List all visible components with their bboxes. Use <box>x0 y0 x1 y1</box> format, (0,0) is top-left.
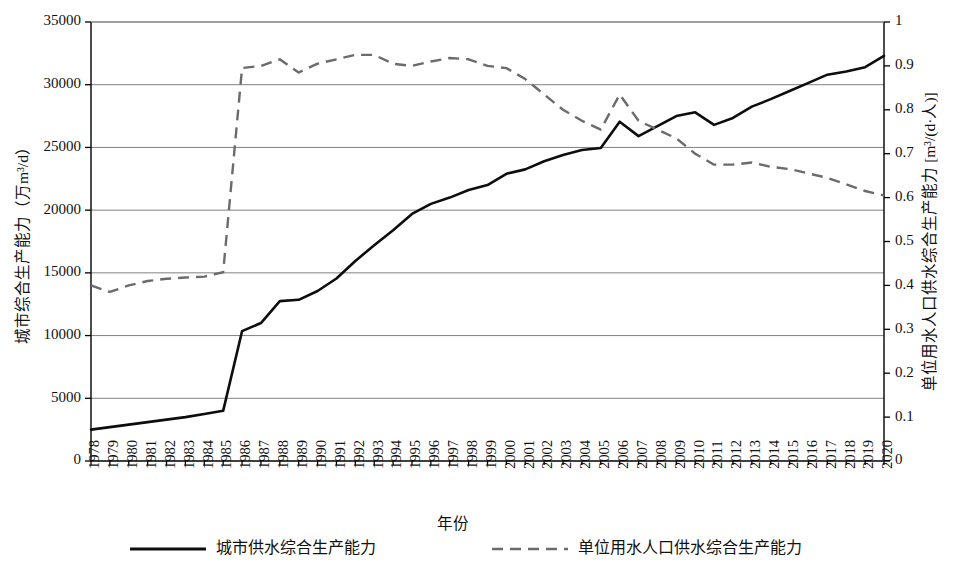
y-tick-label-right: 0.7 <box>895 144 914 160</box>
y-tick-label-left: 25000 <box>44 138 82 154</box>
x-tick-label: 1982 <box>162 440 178 469</box>
x-tick-label: 2017 <box>823 440 839 469</box>
x-tick-label: 2014 <box>766 439 782 469</box>
y-tick-label-left: 20000 <box>44 201 82 217</box>
y-tick-label-left: 0 <box>74 451 82 467</box>
x-tick-label: 1991 <box>332 440 348 469</box>
x-tick-label: 2019 <box>860 440 876 469</box>
y-tick-label-left: 5000 <box>51 389 81 405</box>
x-tick-label: 2000 <box>502 440 518 469</box>
x-tick-label: 2018 <box>842 440 858 469</box>
x-tick-label: 1992 <box>351 440 367 469</box>
series-line-1 <box>91 56 884 430</box>
x-tick-label: 1983 <box>181 440 197 469</box>
y-tick-label-left: 30000 <box>44 75 82 91</box>
x-tick-label: 1987 <box>256 440 272 469</box>
y-tick-label-right: 0.3 <box>895 320 914 336</box>
x-tick-label: 2002 <box>539 440 555 469</box>
x-tick-label: 2016 <box>804 440 820 469</box>
y-tick-label-right: 0.8 <box>895 100 914 116</box>
x-tick-label: 1981 <box>143 440 159 469</box>
legend-label-2: 单位用水人口供水综合生产能力 <box>578 539 802 556</box>
x-tick-label: 2001 <box>521 440 537 469</box>
y-tick-label-right: 0.1 <box>895 408 914 424</box>
y-tick-label-right: 0.5 <box>895 232 914 248</box>
x-tick-label: 2015 <box>785 440 801 469</box>
y-tick-label-left: 10000 <box>44 326 82 342</box>
x-tick-label: 2020 <box>879 440 895 469</box>
x-tick-label: 2012 <box>728 440 744 469</box>
x-tick-label: 1980 <box>124 440 140 469</box>
x-tick-label: 1993 <box>370 440 386 469</box>
x-tick-label: 2003 <box>558 440 574 469</box>
legend-label-1: 城市供水综合生产能力 <box>216 539 376 556</box>
x-tick-label: 1996 <box>426 440 442 469</box>
line-chart: 0500010000150002000025000300003500000.10… <box>0 0 955 562</box>
x-tick-label: 2005 <box>596 440 612 469</box>
y-tick-label-right: 0.6 <box>895 188 914 204</box>
x-tick-label: 2011 <box>709 441 725 469</box>
x-tick-label: 1988 <box>275 440 291 469</box>
y-tick-label-right: 0.4 <box>895 276 914 292</box>
x-tick-label: 2006 <box>615 440 631 469</box>
y-axis-title-right: 单位用水人口供水综合生产能力 [m³/(d·人)] <box>921 92 939 390</box>
x-tick-label: 1984 <box>200 439 216 469</box>
x-tick-label: 1978 <box>86 440 102 469</box>
x-tick-label: 1997 <box>445 440 461 469</box>
y-tick-label-right: 0.9 <box>895 56 914 72</box>
x-tick-label: 2004 <box>577 439 593 469</box>
x-axis-title: 年份 <box>437 515 469 532</box>
y-axis-title-left: 城市综合生产能力（万m³/d） <box>14 139 31 344</box>
x-tick-label: 2009 <box>672 440 688 469</box>
y-tick-label-left: 35000 <box>44 12 82 28</box>
x-tick-label: 1990 <box>313 440 329 469</box>
y-tick-label-right: 0.2 <box>895 364 914 380</box>
x-tick-label: 2010 <box>691 440 707 469</box>
y-tick-label-left: 15000 <box>44 263 82 279</box>
x-tick-label: 1989 <box>294 440 310 469</box>
x-tick-label: 1995 <box>407 440 423 469</box>
y-tick-label-right: 0 <box>895 451 903 467</box>
x-tick-label: 2013 <box>747 440 763 469</box>
x-tick-label: 1985 <box>218 440 234 469</box>
x-tick-label: 1994 <box>388 439 404 469</box>
x-tick-label: 1999 <box>483 440 499 469</box>
x-tick-label: 1998 <box>464 440 480 469</box>
chart-container: 0500010000150002000025000300003500000.10… <box>0 0 955 562</box>
y-tick-label-right: 1 <box>895 12 903 28</box>
x-tick-label: 1979 <box>105 440 121 469</box>
x-tick-label: 2008 <box>653 440 669 469</box>
x-tick-label: 1986 <box>237 440 253 469</box>
x-tick-label: 2007 <box>634 440 650 469</box>
series-line-2 <box>91 55 884 292</box>
